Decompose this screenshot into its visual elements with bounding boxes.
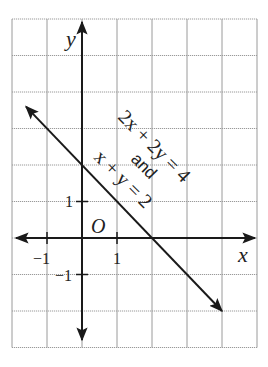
x-tick-label-neg1: −1 xyxy=(33,250,50,267)
origin-label: O xyxy=(91,215,105,237)
x-tick-label-1: 1 xyxy=(113,250,121,267)
y-axis-label: y xyxy=(64,26,76,51)
y-tick-label-neg1: −1 xyxy=(55,267,72,284)
labels: y x O −1 1 1 −1 2x + 2y = 4 and x + y = … xyxy=(33,26,248,284)
y-tick-label-1: 1 xyxy=(65,193,73,210)
x-axis-label: x xyxy=(237,242,248,267)
coordinate-graph: y x O −1 1 1 −1 2x + 2y = 4 and x + y = … xyxy=(0,0,268,367)
